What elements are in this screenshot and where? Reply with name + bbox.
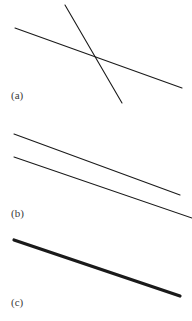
shallow-descending-line <box>15 28 182 88</box>
panel-a: (a) <box>0 0 192 115</box>
thick-descending-line <box>14 240 180 296</box>
panel-label-c: (c) <box>11 297 23 308</box>
panel-b: (b) <box>0 115 192 225</box>
panel-label-a: (a) <box>11 90 23 101</box>
panel-b-plot <box>0 115 192 225</box>
figure-root: (a) (b) (c) <box>0 0 192 321</box>
panel-a-plot <box>0 0 192 115</box>
panel-label-b: (b) <box>11 208 24 219</box>
panel-c-plot <box>0 225 192 321</box>
panel-c: (c) <box>0 225 192 321</box>
steep-descending-line <box>65 5 122 103</box>
